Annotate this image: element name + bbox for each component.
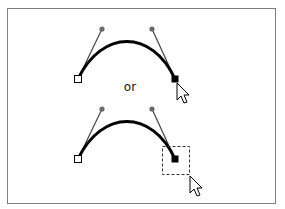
- bezier-diagram: [0, 0, 285, 209]
- anchor-point-end-selected[interactable]: [172, 76, 179, 83]
- anchor-point-start[interactable]: [75, 156, 82, 163]
- direction-point-end[interactable]: [149, 106, 154, 111]
- arrow-cursor-icon: [190, 176, 202, 196]
- or-label: or: [118, 80, 142, 94]
- direction-point-end[interactable]: [149, 26, 154, 31]
- direction-point-start[interactable]: [99, 26, 104, 31]
- anchor-point-end-selected[interactable]: [172, 156, 179, 163]
- direction-point-start[interactable]: [99, 106, 104, 111]
- anchor-point-start[interactable]: [75, 76, 82, 83]
- panel-marquee-select-anchor: [75, 106, 203, 196]
- arrow-cursor-icon: [177, 83, 189, 103]
